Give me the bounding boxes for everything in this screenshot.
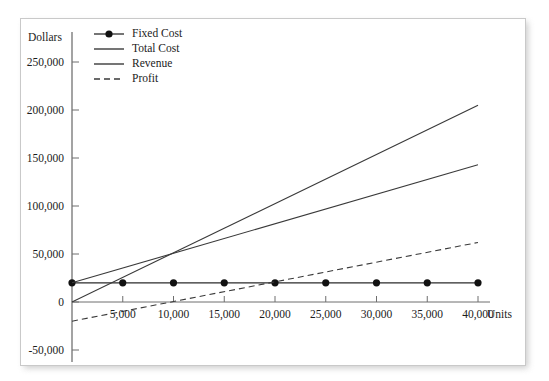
legend-item: Profit — [92, 71, 222, 86]
y-axis-ticks — [72, 62, 79, 350]
y-tick-label: 100,000 — [0, 200, 64, 212]
x-tick-label: 20,000 — [249, 308, 301, 320]
x-axis-title: Units — [487, 308, 512, 320]
data-series-group — [68, 105, 481, 321]
series-marker — [373, 279, 380, 286]
x-tick-label: 10,000 — [148, 308, 200, 320]
chart-legend: Fixed CostTotal CostRevenueProfit — [92, 26, 222, 86]
y-tick-label: 0 — [0, 296, 64, 308]
legend-item: Revenue — [92, 56, 222, 71]
series-marker — [119, 279, 126, 286]
dashed-line-icon — [92, 71, 126, 86]
x-tick-label: 35,000 — [401, 308, 453, 320]
y-tick-label: -50,000 — [0, 344, 64, 356]
legend-label: Profit — [132, 72, 158, 84]
x-tick-label: 25,000 — [300, 308, 352, 320]
series-marker — [322, 279, 329, 286]
legend-item: Total Cost — [92, 41, 222, 56]
legend-label: Revenue — [132, 57, 172, 69]
x-tick-label: 15,000 — [198, 308, 250, 320]
solid-line-icon — [92, 56, 126, 71]
x-tick-label: 5,000 — [97, 308, 149, 320]
chart-screenshot: Dollars -50,000050,000100,000150,000200,… — [0, 0, 549, 381]
y-tick-label: 150,000 — [0, 152, 64, 164]
legend-label: Fixed Cost — [132, 27, 182, 39]
x-tick-label: 30,000 — [351, 308, 403, 320]
series-line-total-cost — [72, 165, 478, 283]
series-marker — [474, 279, 481, 286]
line-with-dot-icon — [92, 26, 126, 41]
series-marker — [424, 279, 431, 286]
solid-line-icon — [92, 41, 126, 56]
chart-plot-area — [0, 0, 549, 381]
legend-label: Total Cost — [132, 42, 179, 54]
y-tick-label: 200,000 — [0, 104, 64, 116]
y-axis-title: Dollars — [28, 31, 62, 43]
y-tick-label: 50,000 — [0, 248, 64, 260]
series-line-revenue — [72, 105, 478, 302]
y-tick-label: 250,000 — [0, 56, 64, 68]
series-marker — [170, 279, 177, 286]
legend-item: Fixed Cost — [92, 26, 222, 41]
series-marker — [221, 279, 228, 286]
